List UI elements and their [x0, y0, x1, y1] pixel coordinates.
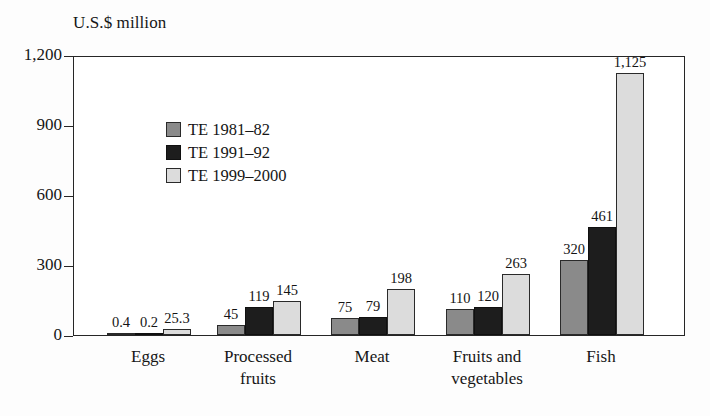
- category-label-line: Eggs: [131, 346, 165, 368]
- bar: [446, 309, 474, 335]
- y-axis-tick-label: 900: [0, 115, 62, 135]
- legend-item[interactable]: TE 1981–82: [166, 119, 287, 140]
- bar: [560, 260, 588, 335]
- bar: [245, 307, 273, 335]
- bar-value-label: 145: [276, 282, 298, 299]
- legend-item-label: TE 1981–82: [188, 120, 270, 140]
- bar: [273, 301, 301, 335]
- bar-value-label: 461: [591, 208, 613, 225]
- y-axis-tick: [64, 266, 73, 267]
- y-axis-tick-label: 1,200: [0, 45, 62, 65]
- bar: [502, 274, 530, 335]
- bar-chart-figure: U.S.$ million 03006009001,200 0.40.225.3…: [0, 0, 710, 416]
- legend-swatch-icon: [166, 145, 181, 160]
- category-label-line: Fish: [586, 346, 615, 368]
- x-axis-category-label: Eggs: [131, 346, 165, 368]
- category-label-line: Fruits and: [451, 346, 523, 368]
- legend-item-label: TE 1991–92: [188, 143, 270, 163]
- plot-area: 0.40.225.3451191457579198110120263320461…: [73, 56, 685, 336]
- bar-value-label: 75: [338, 299, 353, 316]
- legend-item[interactable]: TE 1991–92: [166, 142, 287, 163]
- legend-swatch-icon: [166, 168, 181, 183]
- bar: [474, 307, 502, 335]
- x-axis-category-label: Fruits andvegetables: [451, 346, 523, 390]
- bar: [163, 329, 191, 335]
- bar-value-label: 25.3: [164, 310, 189, 327]
- category-label-line: fruits: [224, 368, 292, 390]
- x-axis-category-label: Meat: [355, 346, 390, 368]
- category-label-line: Processed: [224, 346, 292, 368]
- legend-item[interactable]: TE 1999–2000: [166, 165, 287, 186]
- bar-value-label: 0.2: [140, 314, 158, 331]
- category-label-line: Meat: [355, 346, 390, 368]
- bar: [588, 227, 616, 335]
- bar-value-label: 120: [477, 288, 499, 305]
- bar-value-label: 198: [390, 270, 412, 287]
- bar: [387, 289, 415, 335]
- y-axis-tick: [64, 56, 73, 57]
- y-axis-tick-label: 0: [0, 325, 62, 345]
- bar-value-label: 1,125: [614, 54, 647, 71]
- chart-legend: TE 1981–82TE 1991–92TE 1999–2000: [166, 119, 287, 186]
- bar: [331, 318, 359, 336]
- y-axis-tick-label: 600: [0, 185, 62, 205]
- bar: [135, 333, 163, 335]
- x-axis-category-label: Fish: [586, 346, 615, 368]
- bar-value-label: 45: [224, 306, 239, 323]
- bar-value-label: 0.4: [112, 314, 130, 331]
- bar-value-label: 79: [366, 298, 381, 315]
- y-axis-tick: [64, 126, 73, 127]
- bar: [107, 333, 135, 335]
- bar-value-label: 119: [248, 288, 269, 305]
- bar-value-label: 110: [449, 290, 470, 307]
- bar: [217, 325, 245, 336]
- x-axis-category-label: Processedfruits: [224, 346, 292, 390]
- bar: [359, 317, 387, 335]
- bar-value-label: 263: [505, 255, 527, 272]
- bar: [616, 73, 644, 336]
- bar-value-label: 320: [563, 241, 585, 258]
- legend-item-label: TE 1999–2000: [188, 166, 287, 186]
- y-axis-tick: [64, 336, 73, 337]
- y-axis-tick: [64, 196, 73, 197]
- chart-axis-title: U.S.$ million: [73, 13, 166, 33]
- y-axis-tick-label: 300: [0, 255, 62, 275]
- category-label-line: vegetables: [451, 368, 523, 390]
- legend-swatch-icon: [166, 122, 181, 137]
